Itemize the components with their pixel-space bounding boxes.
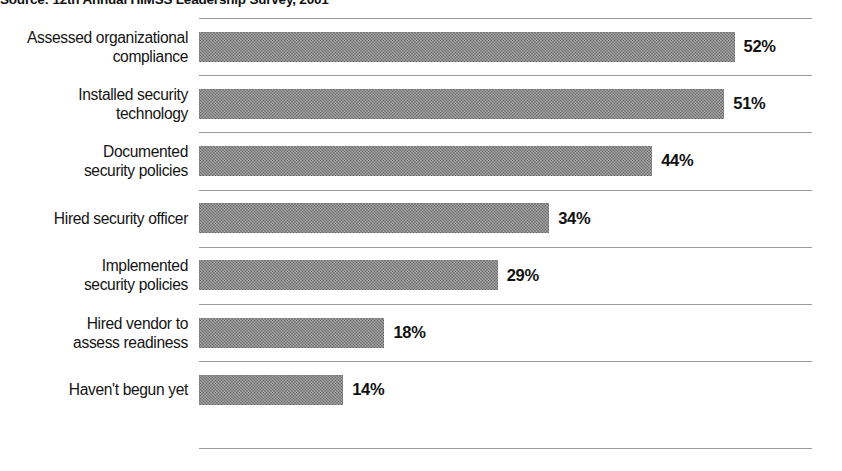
bar-track: 34% xyxy=(199,190,842,247)
bar xyxy=(199,375,343,405)
table-row: Hired security officer 34% xyxy=(0,190,842,247)
bar-value-label: 44% xyxy=(661,151,693,170)
bar xyxy=(199,203,549,233)
category-label: Installed security technology xyxy=(10,75,188,132)
table-row: Installed security technology 51% xyxy=(0,75,842,132)
table-row: Hired vendor to assess readiness 18% xyxy=(0,304,842,361)
axis-baseline-gridline xyxy=(199,448,812,449)
bar-value-label: 29% xyxy=(507,266,539,285)
bar xyxy=(199,260,498,290)
category-label: Haven't begun yet xyxy=(10,361,188,418)
bar-value-label: 18% xyxy=(393,323,425,342)
bar-track: 18% xyxy=(199,304,842,361)
bar-value-label: 51% xyxy=(733,94,765,113)
category-label: Hired vendor to assess readiness xyxy=(10,304,188,361)
chart-plot-area: Assessed organizational compliance 52% I… xyxy=(0,18,842,450)
bar-track: 52% xyxy=(199,18,842,75)
chart-source-note: Source: 12th Annual HIMSS Leadership Sur… xyxy=(0,0,560,11)
bar xyxy=(199,89,724,119)
bar-track: 29% xyxy=(199,247,842,304)
category-label: Implemented security policies xyxy=(10,247,188,304)
bar-track: 51% xyxy=(199,75,842,132)
category-label: Assessed organizational compliance xyxy=(10,18,188,75)
table-row: Haven't begun yet 14% xyxy=(0,361,842,418)
bar-track: 14% xyxy=(199,361,842,418)
bar-track: 44% xyxy=(199,132,842,189)
category-label: Documented security policies xyxy=(10,132,188,189)
table-row: Documented security policies 44% xyxy=(0,132,842,189)
category-label: Hired security officer xyxy=(10,190,188,247)
bar-chart-figure: Source: 12th Annual HIMSS Leadership Sur… xyxy=(0,0,842,471)
bar xyxy=(199,318,384,348)
bar-value-label: 14% xyxy=(352,380,384,399)
bar xyxy=(199,32,735,62)
table-row: Implemented security policies 29% xyxy=(0,247,842,304)
bar xyxy=(199,146,652,176)
bar-value-label: 52% xyxy=(744,37,776,56)
bar-value-label: 34% xyxy=(558,209,590,228)
table-row: Assessed organizational compliance 52% xyxy=(0,18,842,75)
